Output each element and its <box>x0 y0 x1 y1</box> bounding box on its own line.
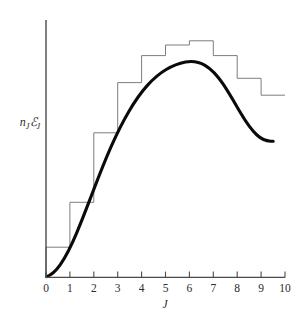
tick-label-4: 4 <box>139 282 145 294</box>
rotational-distribution-chart: nJℰJ <box>0 0 299 316</box>
svg-text:nJℰJ: nJℰJ <box>20 115 41 131</box>
tick-label-7: 7 <box>210 282 216 294</box>
tick-label-3: 3 <box>115 282 121 294</box>
tick-label-5: 5 <box>163 282 169 294</box>
x-axis-tick-labels: 0 1 2 3 4 5 6 7 8 9 10 <box>43 282 291 294</box>
tick-label-0: 0 <box>43 282 49 294</box>
tick-label-10: 10 <box>279 282 291 294</box>
tick-label-9: 9 <box>258 282 264 294</box>
tick-label-8: 8 <box>234 282 240 294</box>
smooth-curve-series <box>47 61 274 276</box>
tick-label-6: 6 <box>187 282 193 294</box>
x-axis-title: J <box>162 298 168 310</box>
histogram-step-path <box>46 41 285 277</box>
tick-label-2: 2 <box>91 282 97 294</box>
axes <box>46 20 285 277</box>
histogram-series <box>46 41 285 277</box>
x-axis-ticks <box>46 272 285 278</box>
ylabel-subscript-j2: J <box>37 122 41 131</box>
figure-container: nJℰJ <box>0 0 299 316</box>
smooth-envelope-path <box>47 61 274 276</box>
tick-label-1: 1 <box>67 282 73 294</box>
y-axis-label: nJℰJ <box>20 115 41 131</box>
